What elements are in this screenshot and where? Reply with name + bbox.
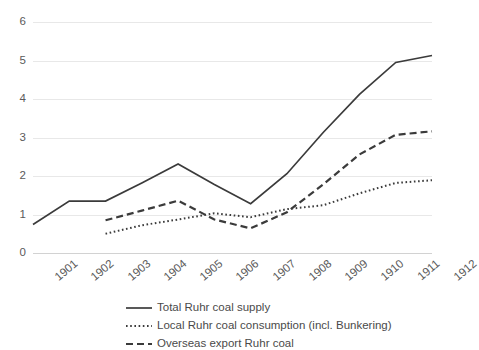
legend-item-label: Overseas export Ruhr coal — [157, 338, 294, 350]
x-axis-tick-label: 1904 — [162, 258, 189, 283]
y-axis-tick-label: 2 — [2, 170, 26, 182]
legend-item: Local Ruhr coal consumption (incl. Bunke… — [126, 318, 392, 333]
series-layer — [33, 22, 432, 253]
x-axis-tick-label: 1902 — [89, 258, 116, 283]
x-axis-tick-label: 1911 — [416, 258, 442, 283]
legend-item-label: Local Ruhr coal consumption (incl. Bunke… — [157, 320, 392, 332]
y-axis-tick-label: 3 — [2, 132, 26, 144]
dashed-line-marker — [126, 339, 152, 349]
solid-line-marker — [126, 303, 152, 313]
x-axis-tick-label: 1907 — [271, 258, 298, 283]
x-axis-tick-label: 1912 — [452, 258, 479, 283]
x-axis-tick-label: 1905 — [198, 258, 225, 283]
legend-item: Overseas export Ruhr coal — [126, 336, 392, 350]
x-axis-tick-label: 1910 — [379, 258, 406, 283]
y-axis-tick-label: 0 — [2, 247, 26, 259]
axis-baseline — [33, 253, 432, 254]
series-line — [106, 131, 432, 228]
x-axis-tick-label: 1909 — [343, 258, 370, 283]
dotted-line-marker — [126, 321, 152, 331]
x-axis-tick-label: 1906 — [234, 258, 261, 283]
legend-item: Total Ruhr coal supply — [126, 300, 392, 315]
x-axis-tick-label: 1903 — [126, 258, 153, 283]
series-line — [33, 56, 432, 225]
y-axis-tick-label: 1 — [2, 209, 26, 221]
legend-item-label: Total Ruhr coal supply — [157, 302, 270, 314]
x-axis-tick-label: 1901 — [53, 258, 80, 283]
y-axis-tick-label: 5 — [2, 55, 26, 67]
chart-legend: Total Ruhr coal supplyLocal Ruhr coal co… — [126, 300, 392, 350]
plot-area — [33, 22, 432, 253]
y-axis-tick-label: 4 — [2, 93, 26, 105]
x-axis-tick-label: 1908 — [307, 258, 334, 283]
y-axis-tick-label: 6 — [2, 16, 26, 28]
